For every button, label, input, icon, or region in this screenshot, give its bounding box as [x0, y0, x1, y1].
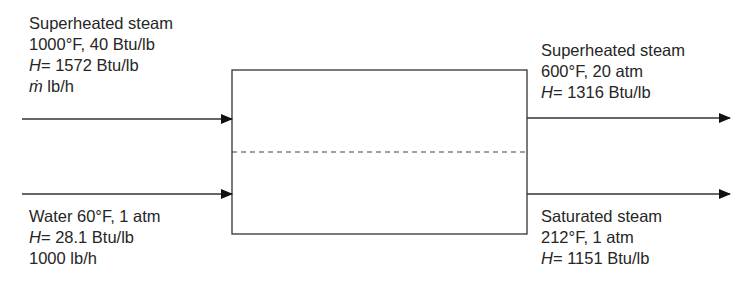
- inlet-top-flow: ṁ lb/h: [29, 76, 173, 97]
- enthalpy-symbol: H: [541, 249, 553, 267]
- enthalpy-value: = 1572 Btu/lb: [41, 56, 139, 74]
- mass-flow-unit: lb/h: [43, 77, 74, 95]
- enthalpy-value: = 1316 Btu/lb: [553, 83, 651, 101]
- inlet-top-conditions: 1000°F, 40 Btu/lb: [29, 34, 173, 55]
- inlet-top-enthalpy: H= 1572 Btu/lb: [29, 55, 173, 76]
- inlet-bottom-flow: 1000 lb/h: [29, 248, 161, 269]
- enthalpy-symbol: H: [29, 228, 41, 246]
- inlet-bottom-enthalpy: H= 28.1 Btu/lb: [29, 227, 161, 248]
- enthalpy-value: = 1151 Btu/lb: [553, 249, 649, 267]
- enthalpy-symbol: H: [29, 56, 41, 74]
- outlet-top-conditions: 600°F, 20 atm: [541, 61, 685, 82]
- outlet-top-enthalpy: H= 1316 Btu/lb: [541, 82, 685, 103]
- mass-flow-symbol: ṁ: [29, 77, 43, 95]
- inlet-top-label: Superheated steam 1000°F, 40 Btu/lb H= 1…: [29, 13, 173, 97]
- inlet-top-name: Superheated steam: [29, 13, 173, 34]
- outlet-top-name: Superheated steam: [541, 40, 685, 61]
- inlet-bottom-name: Water 60°F, 1 atm: [29, 206, 161, 227]
- enthalpy-value: = 28.1 Btu/lb: [41, 228, 134, 246]
- outlet-bottom-label: Saturated steam 212°F, 1 atm H= 1151 Btu…: [541, 206, 662, 269]
- outlet-bottom-enthalpy: H= 1151 Btu/lb: [541, 248, 662, 269]
- outlet-bottom-name: Saturated steam: [541, 206, 662, 227]
- enthalpy-symbol: H: [541, 83, 553, 101]
- outlet-bottom-conditions: 212°F, 1 atm: [541, 227, 662, 248]
- outlet-top-label: Superheated steam 600°F, 20 atm H= 1316 …: [541, 40, 685, 103]
- inlet-bottom-label: Water 60°F, 1 atm H= 28.1 Btu/lb 1000 lb…: [29, 206, 161, 269]
